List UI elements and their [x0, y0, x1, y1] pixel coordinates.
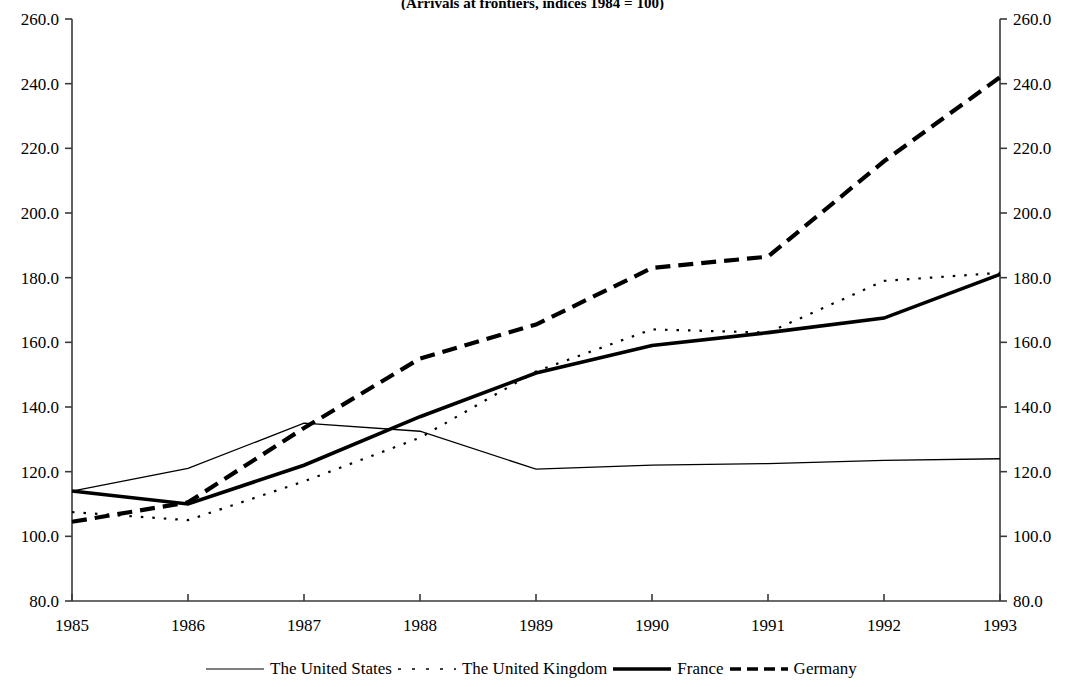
legend-label-the-united-states: The United States	[266, 659, 396, 679]
series-line-germany	[72, 77, 1000, 522]
legend-swatch-thick-solid	[611, 662, 673, 676]
y-tick-label-left: 220.0	[21, 139, 59, 158]
plot-area: 80.080.0100.0100.0120.0120.0140.0140.016…	[0, 0, 1065, 687]
series-line-the-united-kingdom	[72, 273, 1000, 520]
y-tick-label-right: 240.0	[1013, 75, 1051, 94]
x-tick-label: 1991	[751, 616, 785, 635]
y-tick-label-left: 160.0	[21, 333, 59, 352]
y-tick-label-left: 240.0	[21, 75, 59, 94]
y-tick-label-right: 260.0	[1013, 10, 1051, 29]
x-tick-label: 1990	[635, 616, 669, 635]
legend-label-germany: Germany	[790, 659, 861, 679]
legend-item-france: France	[611, 659, 727, 679]
series-group	[72, 77, 1000, 522]
legend-label-france: France	[673, 659, 727, 679]
y-tick-label-left: 80.0	[29, 592, 59, 611]
y-tick-label-left: 140.0	[21, 398, 59, 417]
x-tick-label: 1987	[287, 616, 322, 635]
axes-group	[65, 19, 1007, 601]
y-tick-label-right: 140.0	[1013, 398, 1051, 417]
y-tick-label-right: 180.0	[1013, 269, 1051, 288]
y-tick-label-right: 200.0	[1013, 204, 1051, 223]
y-tick-label-left: 200.0	[21, 204, 59, 223]
chart-container: (Arrivals at frontiers, indices 1984 = 1…	[0, 0, 1065, 687]
x-tick-label: 1993	[983, 616, 1017, 635]
y-tick-label-left: 180.0	[21, 269, 59, 288]
legend-swatch-dotted	[396, 662, 458, 676]
x-tick-label: 1989	[519, 616, 553, 635]
legend-item-the-united-kingdom: The United Kingdom	[396, 659, 611, 679]
legend-swatch-thick-dashed	[728, 662, 790, 676]
x-tick-label: 1992	[867, 616, 901, 635]
y-tick-label-right: 160.0	[1013, 333, 1051, 352]
x-tick-label: 1985	[55, 616, 89, 635]
legend-item-the-united-states: The United States	[204, 659, 396, 679]
x-tick-label: 1986	[171, 616, 205, 635]
y-tick-label-left: 260.0	[21, 10, 59, 29]
y-tick-label-right: 120.0	[1013, 463, 1051, 482]
legend-swatch-thin-solid	[204, 662, 266, 676]
y-tick-label-right: 80.0	[1013, 592, 1043, 611]
y-tick-label-right: 220.0	[1013, 139, 1051, 158]
x-tick-label: 1988	[403, 616, 437, 635]
series-line-the-united-states	[72, 423, 1000, 491]
chart-legend: The United States The United Kingdom Fra…	[0, 659, 1065, 679]
legend-label-the-united-kingdom: The United Kingdom	[458, 659, 611, 679]
legend-item-germany: Germany	[728, 659, 861, 679]
y-tick-label-right: 100.0	[1013, 527, 1051, 546]
y-tick-label-left: 100.0	[21, 527, 59, 546]
y-tick-label-left: 120.0	[21, 463, 59, 482]
